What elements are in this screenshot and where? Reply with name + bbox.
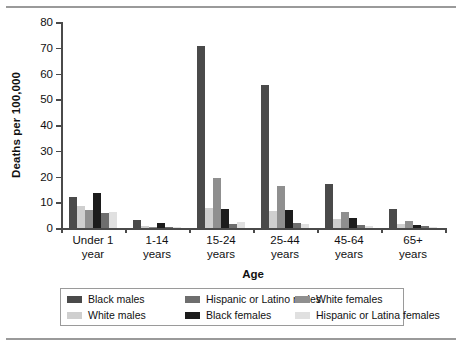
bar xyxy=(69,197,77,228)
bar xyxy=(333,219,341,228)
legend-label: Black females xyxy=(206,309,271,321)
bar xyxy=(213,178,221,228)
bar xyxy=(157,223,165,228)
bar xyxy=(173,227,181,228)
bar xyxy=(141,226,149,228)
x-axis-label-line: years xyxy=(317,248,381,262)
x-axis-label: 45-64years xyxy=(317,234,381,261)
top-divider-rule xyxy=(6,6,456,8)
legend-label: Hispanic or Latina females xyxy=(316,309,440,321)
bar xyxy=(301,224,309,228)
x-tick-mark xyxy=(61,228,63,233)
bar xyxy=(205,208,213,228)
bar xyxy=(229,224,237,228)
y-tick-label: 60 xyxy=(40,68,53,80)
bar xyxy=(357,225,365,228)
bar xyxy=(389,209,397,228)
legend-label: White males xyxy=(88,309,146,321)
bar xyxy=(269,211,277,228)
x-axis-label-line: year xyxy=(61,248,125,262)
legend-label: Black males xyxy=(88,293,145,305)
x-axis-label-line: 25-44 xyxy=(253,234,317,248)
legend-item: Hispanic or Latina females xyxy=(295,309,440,321)
y-axis-title: Deaths per 100,000 xyxy=(8,22,24,228)
x-axis-labels: Under 1year1-14years15-24years25-44years… xyxy=(61,234,445,261)
x-axis-label: 25-44years xyxy=(253,234,317,261)
bar xyxy=(149,227,157,228)
bar xyxy=(93,193,101,228)
legend-swatch xyxy=(67,296,82,303)
bar xyxy=(165,227,173,228)
y-axis-title-text: Deaths per 100,000 xyxy=(10,72,22,178)
bar xyxy=(221,209,229,228)
x-tick-mark xyxy=(189,228,191,233)
x-tick-mark xyxy=(125,228,127,233)
bar xyxy=(405,221,413,228)
bar xyxy=(293,223,301,228)
bar xyxy=(285,210,293,228)
x-axis-label-line: 45-64 xyxy=(317,234,381,248)
x-axis-label-line: years xyxy=(381,248,445,262)
bar xyxy=(101,213,109,228)
bar-group xyxy=(381,22,445,228)
bar xyxy=(237,222,245,228)
y-tick-label: 20 xyxy=(40,171,53,183)
bar-group xyxy=(317,22,381,228)
y-tick-label: 70 xyxy=(40,42,53,54)
bar xyxy=(197,46,205,228)
x-axis-title: Age xyxy=(61,268,445,280)
bar xyxy=(85,210,93,228)
chart-plot-area: 01020304050607080 xyxy=(61,22,445,228)
y-tick-label: 40 xyxy=(40,119,53,131)
x-axis-label-line: Under 1 xyxy=(61,234,125,248)
x-tick-mark xyxy=(253,228,255,233)
bar xyxy=(277,186,285,228)
y-tick-label: 0 xyxy=(47,222,53,234)
y-tick-label: 30 xyxy=(40,145,53,157)
legend-item: White females xyxy=(295,293,440,305)
x-tick-mark xyxy=(381,228,383,233)
x-axis-label-line: years xyxy=(189,248,253,262)
y-tick-label: 80 xyxy=(40,16,53,28)
bar-group xyxy=(125,22,189,228)
legend-swatch xyxy=(295,296,310,303)
bar-groups xyxy=(61,22,445,228)
x-axis-label-line: years xyxy=(253,248,317,262)
legend-swatch xyxy=(185,296,200,303)
bar xyxy=(109,212,117,228)
bar xyxy=(349,218,357,228)
bar xyxy=(133,220,141,228)
x-axis-label-line: 15-24 xyxy=(189,234,253,248)
legend-label: White females xyxy=(316,293,383,305)
x-tick-mark xyxy=(445,228,447,233)
bar xyxy=(421,226,429,228)
bar xyxy=(397,224,405,228)
bar xyxy=(413,225,421,228)
bottom-divider-rule xyxy=(6,338,456,340)
x-axis-label-line: 1-14 xyxy=(125,234,189,248)
bar xyxy=(77,206,85,228)
x-axis-label: 15-24years xyxy=(189,234,253,261)
bar-group xyxy=(61,22,125,228)
bar-group xyxy=(189,22,253,228)
x-axis-label: Under 1year xyxy=(61,234,125,261)
x-axis-label: 1-14years xyxy=(125,234,189,261)
legend-swatch xyxy=(67,312,82,319)
legend-item: Hispanic or Latino males xyxy=(185,293,295,305)
legend-item: Black females xyxy=(185,309,295,321)
legend-item: White males xyxy=(67,309,185,321)
legend-swatch xyxy=(185,312,200,319)
y-tick-label: 10 xyxy=(40,196,53,208)
bar xyxy=(261,85,269,228)
x-axis-label-line: 65+ xyxy=(381,234,445,248)
bar xyxy=(325,184,333,228)
y-tick-label: 50 xyxy=(40,93,53,105)
chart-legend: Black malesWhite malesHispanic or Latino… xyxy=(60,288,404,326)
bar-group xyxy=(253,22,317,228)
legend-item: Black males xyxy=(67,293,185,305)
legend-swatch xyxy=(295,312,310,319)
x-axis-label-line: years xyxy=(125,248,189,262)
x-tick-mark xyxy=(317,228,319,233)
bar xyxy=(429,227,437,228)
bar xyxy=(365,226,373,228)
